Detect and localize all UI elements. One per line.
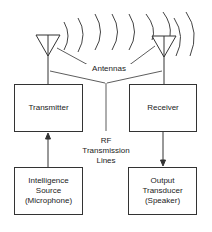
transmitter-label: Transmitter: [28, 103, 68, 113]
transmitter-antenna-icon: [36, 35, 60, 84]
output-transducer-block: Output Transducer (Speaker): [128, 167, 197, 215]
radio-waves-icon: [64, 12, 194, 56]
receiver-block: Receiver: [129, 84, 197, 132]
receiver-antenna-icon: [152, 36, 176, 84]
rf-transmission-lines-label: RF Transmission Lines: [78, 136, 134, 166]
intelligence-source-block: Intelligence Source (Microphone): [14, 167, 83, 215]
transmitter-block: Transmitter: [14, 84, 83, 132]
receiver-label: Receiver: [147, 103, 179, 113]
antennas-label: Antennas: [86, 64, 132, 74]
antennas-leader-lines: [57, 46, 155, 66]
